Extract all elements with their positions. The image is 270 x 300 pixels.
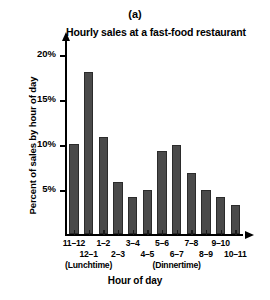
y-tick-mark	[60, 100, 66, 101]
x-axis-line	[65, 234, 243, 236]
panel-label: (a)	[0, 8, 270, 20]
x-tick-label: 1–2	[96, 238, 110, 248]
x-tick-mark	[221, 230, 222, 235]
x-tick-label: 4–5	[140, 249, 154, 259]
y-tick-mark	[60, 55, 66, 56]
plot-area: 5%10%15%20%	[65, 40, 245, 236]
bar-slot	[199, 40, 214, 234]
bar-slot	[184, 40, 199, 234]
x-tick-mark	[133, 230, 134, 235]
bar-slot	[169, 40, 184, 234]
y-axis-title: Percent of sales by hour of day	[27, 51, 38, 241]
x-tick-mark	[206, 230, 207, 235]
bar-slot	[228, 40, 243, 234]
bar	[69, 144, 78, 234]
x-tick-label: 3–4	[126, 238, 140, 248]
bar	[216, 197, 225, 235]
x-tick-label: 5–6	[155, 238, 169, 248]
y-tick-mark	[60, 190, 66, 191]
axis-annotation: (Dinnertime)	[152, 260, 200, 270]
chart-title: Hourly sales at a fast-food restaurant	[66, 26, 266, 38]
bar	[84, 72, 93, 234]
bar	[172, 145, 181, 234]
bar-slot	[96, 40, 111, 234]
bar	[201, 190, 210, 234]
bar-slot	[213, 40, 228, 234]
y-tick-label: 15%	[37, 93, 56, 104]
y-tick-label: 20%	[37, 48, 56, 59]
x-tick-mark	[89, 230, 90, 235]
axis-annotation: (Lunchtime)	[65, 260, 112, 270]
x-tick-label: 8–9	[199, 249, 213, 259]
bar-slot	[125, 40, 140, 234]
y-tick-mark	[60, 145, 66, 146]
x-tick-mark	[103, 230, 104, 235]
x-tick-label: 2–3	[111, 249, 125, 259]
x-axis-title: Hour of day	[0, 275, 270, 286]
x-tick-label: 12–1	[79, 249, 97, 259]
bar-slot	[111, 40, 126, 234]
bar	[187, 173, 196, 234]
y-tick-label: 10%	[37, 138, 56, 149]
x-tick-mark	[118, 230, 119, 235]
x-tick-mark	[74, 230, 75, 235]
x-tick-mark	[162, 230, 163, 235]
bar-slot	[155, 40, 170, 234]
bar-slot	[67, 40, 82, 234]
bar	[99, 137, 108, 234]
x-tick-label: 11–12	[63, 238, 85, 248]
x-tick-mark	[235, 230, 236, 235]
x-tick-label: 10–11	[224, 249, 246, 259]
figure-panel: (a) Hourly sales at a fast-food restaura…	[0, 0, 270, 300]
x-tick-label: 6–7	[170, 249, 184, 259]
x-tick-mark	[177, 230, 178, 235]
bar	[113, 182, 122, 234]
x-tick-label: 7–8	[184, 238, 198, 248]
x-tick-mark	[147, 230, 148, 235]
bar-slot	[81, 40, 96, 234]
bar	[128, 197, 137, 235]
bar	[157, 151, 166, 235]
x-tick-label: 9–10	[211, 238, 229, 248]
x-tick-mark	[191, 230, 192, 235]
y-tick-label: 5%	[42, 183, 56, 194]
bar	[143, 190, 152, 234]
bar-slot	[140, 40, 155, 234]
bar-series	[67, 40, 243, 234]
